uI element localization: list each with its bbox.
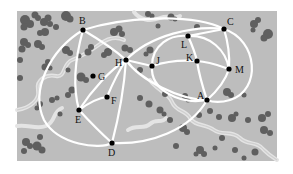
- tree-cluster: [213, 146, 218, 151]
- tree-cluster: [216, 114, 222, 120]
- tree-cluster: [49, 97, 55, 103]
- svg-text:G: G: [98, 71, 105, 82]
- tree-cluster: [242, 156, 247, 161]
- tree-cluster: [207, 108, 213, 114]
- map-diagram: A B C D E F G H J K L M: [0, 0, 293, 174]
- tree-cluster: [37, 134, 43, 140]
- svg-text:L: L: [181, 39, 187, 50]
- tree-cluster: [232, 147, 238, 153]
- svg-text:B: B: [79, 15, 86, 26]
- tree-cluster: [137, 95, 143, 101]
- tree-cluster: [245, 117, 251, 123]
- svg-text:M: M: [235, 64, 244, 75]
- tree-cluster: [167, 117, 173, 123]
- svg-text:H: H: [115, 57, 122, 68]
- tree-cluster: [173, 143, 179, 149]
- tree-cluster: [53, 24, 59, 30]
- tree-cluster: [58, 112, 63, 117]
- svg-text:D: D: [108, 147, 115, 158]
- svg-text:C: C: [227, 16, 234, 27]
- tree-cluster: [66, 68, 71, 73]
- tree-cluster: [219, 135, 225, 141]
- svg-text:E: E: [75, 114, 81, 125]
- tree-cluster: [156, 24, 161, 29]
- svg-text:F: F: [111, 95, 117, 106]
- svg-text:J: J: [156, 55, 160, 66]
- svg-text:K: K: [186, 52, 194, 63]
- tree-cluster: [252, 149, 259, 156]
- tree-cluster: [17, 75, 23, 81]
- tree-cluster: [146, 101, 153, 108]
- tree-cluster: [17, 57, 23, 63]
- svg-text:A: A: [197, 90, 205, 101]
- tree-cluster: [55, 96, 60, 101]
